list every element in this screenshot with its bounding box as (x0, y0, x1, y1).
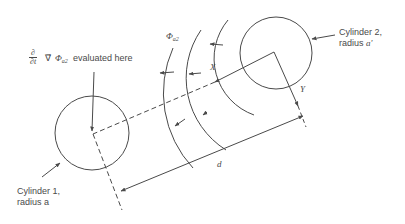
x-axis-label: X (210, 62, 216, 73)
gradient-operator: ∇⃗ (45, 53, 51, 64)
phi-a2-label: Φa2 (166, 31, 179, 45)
phi-subscript: a2 (173, 36, 179, 42)
field-arrow (175, 119, 185, 126)
field-arrow (160, 72, 174, 73)
cylinder-2-circle (240, 17, 312, 89)
diagram-canvas: ∂ ∂t ∇⃗ Φa2 evaluated here Φa2 X Y d Cyl… (0, 0, 405, 224)
eval-expr-fraction: ∂ ∂t (29, 49, 37, 66)
x-axis-solid (215, 52, 274, 82)
evaluated-here-text: evaluated here (73, 53, 133, 64)
radius-prefix: radius (17, 197, 44, 207)
cylinder-1-label-line2: radius a (17, 197, 49, 208)
cylinder-2-leader (312, 35, 335, 39)
phi-char: Φ (55, 53, 62, 63)
cylinder-1-circle (55, 96, 129, 170)
phi-char: Φ (166, 31, 173, 41)
cylinder-1-perpendicular-dashed (93, 134, 122, 210)
eval-phi-symbol: Φa2 (55, 53, 68, 67)
cylinder-2-label-line2: radius a' (339, 38, 372, 49)
cylinder-2-label-line1: Cylinder 2, (339, 27, 382, 38)
field-arrow (210, 44, 223, 45)
field-arrow (189, 73, 201, 74)
cylinder-1-label-line1: Cylinder 1, (17, 186, 60, 197)
phi-subscript: a2 (62, 58, 68, 64)
radius-prefix: radius (339, 38, 366, 48)
field-arrow (203, 112, 207, 115)
distance-dimension-line (121, 116, 303, 191)
cylinder-1-leader (42, 163, 60, 177)
wavefront-arc-inner (214, 20, 254, 115)
eval-point-leader (92, 72, 94, 131)
radius-var: a' (366, 38, 372, 48)
y-axis-label: Y (300, 84, 305, 95)
wavefront-arc-outer (163, 48, 193, 168)
x-axis-dashed (93, 82, 215, 134)
radius-var: a (44, 197, 49, 207)
fraction-denominator: ∂t (29, 58, 37, 66)
distance-label: d (217, 159, 222, 170)
y-axis-solid (274, 52, 298, 106)
wavefront-arc-middle (186, 30, 226, 150)
